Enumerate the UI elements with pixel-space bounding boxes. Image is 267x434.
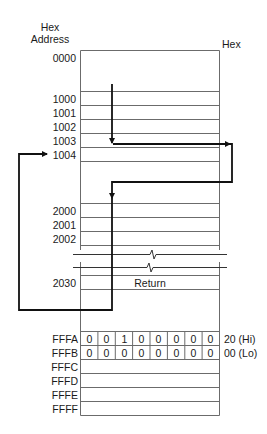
bit-cell: 0 (133, 333, 150, 345)
address-fffa: FFFA (30, 333, 78, 345)
bit-cell: 0 (202, 347, 219, 359)
address-2001: 2001 (28, 219, 76, 231)
address-2002: 2002 (28, 233, 76, 245)
bit-cell: 0 (116, 347, 133, 359)
bit-cell: 1 (116, 333, 133, 345)
address-1000: 1000 (28, 93, 76, 105)
bit-cell: 0 (98, 347, 115, 359)
vector-lo-value: 00 (Lo) (224, 347, 257, 359)
value-header: Hex (222, 38, 241, 50)
bit-cell: 0 (185, 347, 202, 359)
address-2030: 2030 (28, 277, 76, 289)
address-1003: 1003 (28, 135, 76, 147)
address-fffb: FFFB (30, 347, 78, 359)
bit-cell: 0 (185, 333, 202, 345)
bit-cell: 0 (202, 333, 219, 345)
address-1004: 1004 (28, 149, 76, 161)
address-header-line1: Hex (20, 21, 80, 33)
address-ffff: FFFF (30, 403, 78, 415)
bit-cell: 0 (81, 347, 98, 359)
address-1001: 1001 (28, 107, 76, 119)
bit-cell: 0 (81, 333, 98, 345)
address-1002: 1002 (28, 121, 76, 133)
bit-cell: 0 (98, 333, 115, 345)
bit-cell: 0 (133, 347, 150, 359)
vector-hi-value: 20 (Hi) (224, 333, 256, 345)
address-header-line2: Address (20, 33, 80, 45)
memory-block-outline (81, 51, 220, 416)
bit-cell: 0 (150, 333, 167, 345)
address-0000: 0000 (28, 52, 76, 64)
bit-cell: 0 (168, 347, 185, 359)
address-fffc: FFFC (30, 361, 78, 373)
bit-cell: 0 (150, 347, 167, 359)
return-instruction-cell: Return (120, 277, 180, 289)
address-fffd: FFFD (30, 375, 78, 387)
bit-cell: 0 (168, 333, 185, 345)
address-2000: 2000 (28, 205, 76, 217)
address-break-marks (73, 250, 227, 272)
address-fffe: FFFE (30, 389, 78, 401)
